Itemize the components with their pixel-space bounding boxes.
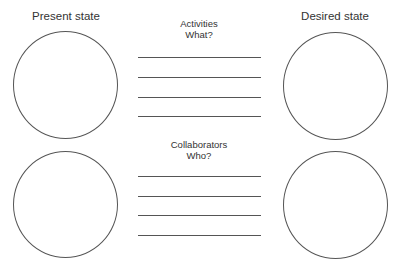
desired-state-heading: Desired state [301, 10, 369, 22]
present-state-circle-top [13, 31, 118, 139]
activities-question: What? [180, 29, 217, 40]
activity-entry-line[interactable] [138, 57, 261, 58]
present-state-circle-bottom [13, 151, 118, 258]
collaborators-title: Collaborators [171, 139, 228, 150]
collaborator-entry-line[interactable] [138, 235, 261, 236]
activity-entry-line[interactable] [138, 116, 261, 117]
collaborator-entry-line[interactable] [138, 176, 261, 177]
collaborators-question: Who? [171, 150, 228, 161]
present-state-heading: Present state [32, 10, 100, 22]
collaborator-entry-line[interactable] [138, 196, 261, 197]
activities-label: Activities What? [180, 18, 217, 40]
desired-state-circle-bottom [283, 151, 388, 259]
activities-title: Activities [180, 18, 217, 29]
desired-state-circle-top [283, 32, 388, 140]
collaborator-entry-line[interactable] [138, 215, 261, 216]
activity-entry-line[interactable] [138, 97, 261, 98]
collaborators-label: Collaborators Who? [171, 139, 228, 161]
activity-entry-line[interactable] [138, 77, 261, 78]
